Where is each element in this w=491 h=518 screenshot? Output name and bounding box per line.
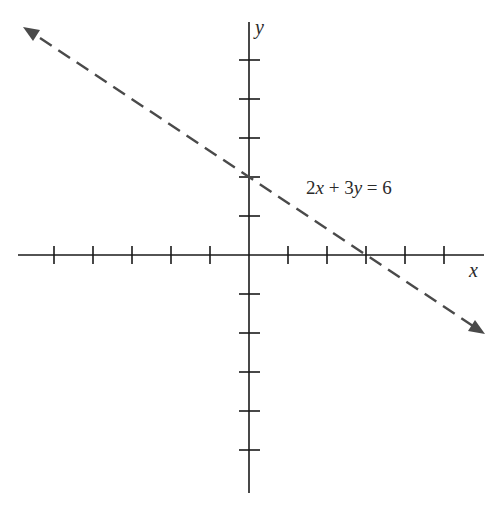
y-axis-label: y: [255, 16, 264, 39]
eq-var-y: y: [354, 177, 362, 198]
arrowhead-left-icon: [23, 27, 40, 41]
eq-part-3: = 6: [362, 177, 392, 198]
line-2x-plus-3y-equals-6: [40, 38, 473, 326]
eq-part-2: + 3: [324, 177, 354, 198]
eq-part-1: 2: [306, 177, 316, 198]
coordinate-plane: [0, 0, 491, 518]
arrowhead-right-icon: [468, 320, 485, 334]
equation-label: 2x + 3y = 6: [306, 177, 392, 199]
eq-var-x: x: [316, 177, 324, 198]
x-axis-label: x: [469, 259, 478, 282]
